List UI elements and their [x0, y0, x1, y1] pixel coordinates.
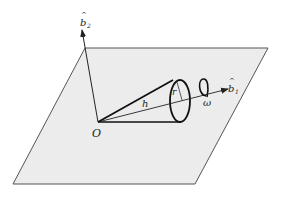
- svg-text:b: b: [80, 17, 86, 28]
- label-h: h: [142, 98, 148, 109]
- plane: [13, 48, 268, 184]
- cone-diagram: O h r ω ^ b 1 ^ b 2: [0, 0, 283, 197]
- svg-text:1: 1: [235, 88, 239, 95]
- label-r: r: [172, 87, 177, 97]
- label-b2: ^ b 2: [80, 11, 91, 29]
- svg-text:b: b: [228, 83, 234, 94]
- label-omega: ω: [203, 97, 211, 108]
- svg-text:2: 2: [86, 22, 91, 29]
- label-origin: O: [92, 127, 101, 140]
